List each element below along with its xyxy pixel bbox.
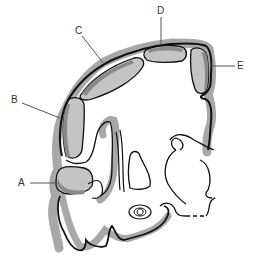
tooth-ring-outer [129, 205, 151, 219]
label-C: C [75, 26, 82, 36]
sinus-triangle [129, 152, 151, 190]
label-E: E [237, 61, 244, 71]
nasal-septum-right [120, 130, 124, 192]
leader-C [82, 36, 104, 64]
label-A: A [18, 178, 25, 188]
right-hook [206, 198, 215, 216]
jaw-line [160, 203, 186, 216]
label-D: D [157, 6, 164, 16]
tooth-center [137, 209, 143, 215]
right-structure-lower [165, 150, 186, 204]
diagram-canvas: A B C D E [0, 0, 256, 272]
inner-fold-2 [88, 181, 103, 199]
right-structure-loop [172, 138, 183, 150]
right-structure-side [200, 160, 212, 198]
leader-B [22, 103, 60, 118]
label-B: B [11, 95, 18, 105]
lower-gray-band [62, 196, 168, 247]
head-section-drawing [0, 0, 256, 272]
